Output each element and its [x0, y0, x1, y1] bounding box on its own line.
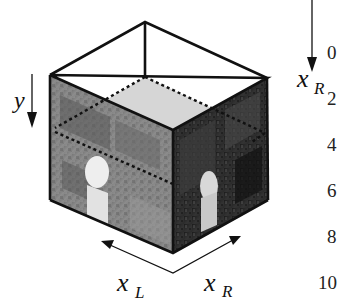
x-left-subscript: L	[134, 283, 144, 302]
side-tick-0: 0	[327, 42, 337, 64]
side-tick-2: 2	[327, 88, 337, 110]
side-tick-10: 10	[318, 272, 337, 294]
side-tick-4: 4	[327, 134, 337, 156]
mannequin-head-left	[85, 156, 109, 188]
x-left-arrowhead	[101, 240, 114, 249]
side-xr-arrow	[307, 0, 317, 72]
x-right-subscript: R	[221, 282, 233, 301]
side-xr-subscript: R	[313, 79, 325, 98]
dsi-cube-diagram: y x L x R x R	[0, 0, 347, 307]
x-right-label: x	[203, 268, 216, 297]
y-axis-label: y	[12, 87, 25, 113]
x-left-label: x	[116, 268, 129, 297]
side-xr-label: x	[296, 64, 309, 93]
side-tick-8: 8	[327, 226, 337, 248]
side-tick-6: 6	[327, 180, 337, 202]
y-axis-arrow	[27, 74, 37, 128]
